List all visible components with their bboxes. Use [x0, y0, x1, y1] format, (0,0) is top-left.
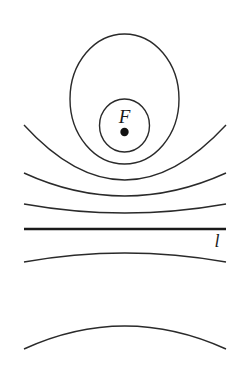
focus-point — [120, 128, 128, 136]
curve-4 — [24, 253, 226, 262]
curve-5 — [24, 326, 226, 349]
directrix-label: l — [214, 231, 219, 251]
curve-2 — [24, 173, 226, 196]
focus-label: F — [118, 106, 131, 127]
curve-3 — [24, 204, 226, 213]
conic-family-diagram: F l — [0, 0, 243, 380]
